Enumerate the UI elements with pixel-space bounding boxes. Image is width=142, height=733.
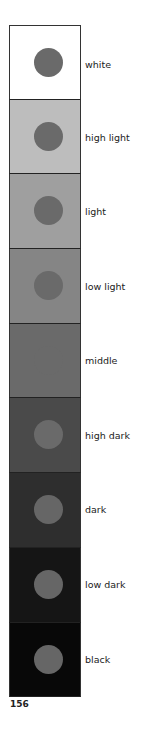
swatch-white <box>9 25 81 100</box>
middle-gray-dot <box>34 196 63 225</box>
label-high-dark: high dark <box>85 430 130 441</box>
middle-gray-dot <box>34 346 63 375</box>
middle-gray-dot <box>34 570 63 599</box>
label-low-light: low light <box>85 281 125 292</box>
middle-gray-dot <box>34 645 63 674</box>
label-white: white <box>85 59 111 70</box>
swatch-light <box>9 174 81 249</box>
label-black: black <box>85 654 110 665</box>
middle-gray-dot <box>34 271 63 300</box>
label-low-dark: low dark <box>85 579 126 590</box>
label-middle: middle <box>85 355 117 366</box>
swatch-high-light <box>9 100 81 175</box>
swatch-middle <box>9 324 81 399</box>
swatch-black <box>9 623 81 698</box>
label-light: light <box>85 206 106 217</box>
middle-gray-dot <box>34 48 63 77</box>
swatch-high-dark <box>9 398 81 473</box>
label-dark: dark <box>85 504 106 515</box>
swatch-low-dark <box>9 548 81 623</box>
page-number: 156 <box>10 699 29 709</box>
swatch-dark <box>9 473 81 548</box>
middle-gray-dot <box>34 495 63 524</box>
swatch-low-light <box>9 249 81 324</box>
middle-gray-dot <box>34 420 63 449</box>
middle-gray-dot <box>34 122 63 151</box>
label-high-light: high light <box>85 132 130 143</box>
value-scale <box>9 25 81 697</box>
